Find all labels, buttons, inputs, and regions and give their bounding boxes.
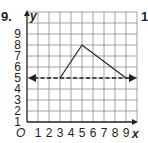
y-tick-label: 9 bbox=[14, 27, 21, 41]
x-axis-label: x bbox=[131, 127, 140, 141]
coordinate-graph: 1 2 3 4 5 6 7 8 9 1 2 3 4 5 6 7 8 9 O x … bbox=[0, 0, 148, 143]
grid-lines bbox=[27, 12, 137, 122]
y-axis-label: y bbox=[29, 9, 38, 23]
x-tick-label: 3 bbox=[57, 126, 64, 140]
x-tick-label: 6 bbox=[90, 126, 97, 140]
right-arrow-icon bbox=[129, 74, 137, 82]
axes bbox=[27, 14, 134, 122]
left-arrow-icon bbox=[28, 74, 36, 82]
x-tick-label: 1 bbox=[35, 126, 42, 140]
x-tick-label: 4 bbox=[68, 126, 75, 140]
x-tick-label: 2 bbox=[46, 126, 53, 140]
x-tick-label: 9 bbox=[123, 126, 130, 140]
x-tick-label: 5 bbox=[79, 126, 86, 140]
x-tick-label: 8 bbox=[112, 126, 119, 140]
x-tick-label: 7 bbox=[101, 126, 108, 140]
origin-label: O bbox=[16, 126, 25, 140]
